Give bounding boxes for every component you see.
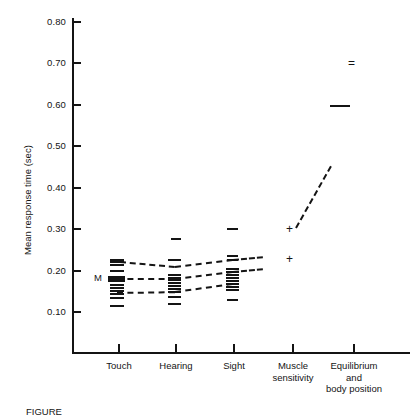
series-upper-segment [175, 259, 233, 268]
x-tick [233, 344, 235, 353]
y-tick-label: 0.40 [26, 182, 66, 193]
y-tick-label: 0.20 [26, 265, 66, 276]
y-tick [72, 270, 81, 272]
y-tick [72, 104, 81, 106]
figure-caption: FIGURE [26, 406, 62, 417]
data-point [168, 259, 181, 261]
y-tick [72, 145, 81, 147]
data-point [226, 280, 239, 282]
mean-marker-label: M [94, 272, 102, 283]
data-point [110, 270, 124, 272]
y-tick-label: 0.70 [26, 57, 66, 68]
series-middle-segment [117, 278, 175, 280]
y-tick [72, 62, 81, 64]
x-tick [292, 344, 294, 353]
y-tick-label: 0.50 [26, 140, 66, 151]
data-point [168, 303, 181, 305]
series-upper-segment [233, 256, 263, 261]
data-point [168, 274, 181, 276]
data-point [110, 297, 124, 299]
data-point [226, 268, 239, 270]
y-tick [72, 311, 81, 313]
data-point [110, 305, 124, 307]
data-point [226, 277, 239, 279]
data-point [168, 285, 181, 287]
y-tick-label: 0.10 [26, 306, 66, 317]
data-point [171, 238, 181, 240]
equals-marker: = [348, 57, 355, 69]
data-point [110, 284, 124, 286]
series-equilibrium-rise [295, 166, 332, 228]
data-point [226, 289, 239, 291]
x-axis-spine [72, 352, 410, 354]
y-axis-spine [72, 18, 74, 354]
data-point [110, 264, 124, 266]
x-tick [175, 344, 177, 353]
y-tick-label: 0.30 [26, 223, 66, 234]
y-axis-title: Mean response time (sec) [22, 145, 33, 255]
data-point [108, 280, 125, 282]
data-point [168, 282, 181, 284]
x-tick-label-equilibrium: Equilibriumandbody position [309, 360, 399, 395]
data-point [227, 255, 238, 257]
x-tick [118, 344, 120, 353]
series-equilibrium-plateau [330, 105, 350, 107]
y-tick [72, 228, 81, 230]
plus-marker-upper: + [286, 223, 293, 235]
data-point [226, 286, 239, 288]
plus-marker-lower: + [286, 253, 293, 265]
series-lower-segment [175, 283, 233, 293]
series-upper-segment [120, 261, 175, 268]
data-point [227, 228, 238, 230]
y-tick-label: 0.80 [26, 16, 66, 27]
y-tick-label: 0.60 [26, 99, 66, 110]
data-point [226, 274, 239, 276]
series-middle-segment [175, 271, 233, 280]
y-tick [72, 187, 81, 189]
data-point [168, 296, 181, 298]
x-tick [353, 344, 355, 353]
y-tick [72, 21, 81, 23]
series-lower-segment [117, 291, 175, 294]
data-point [227, 299, 238, 301]
data-point [110, 287, 124, 289]
